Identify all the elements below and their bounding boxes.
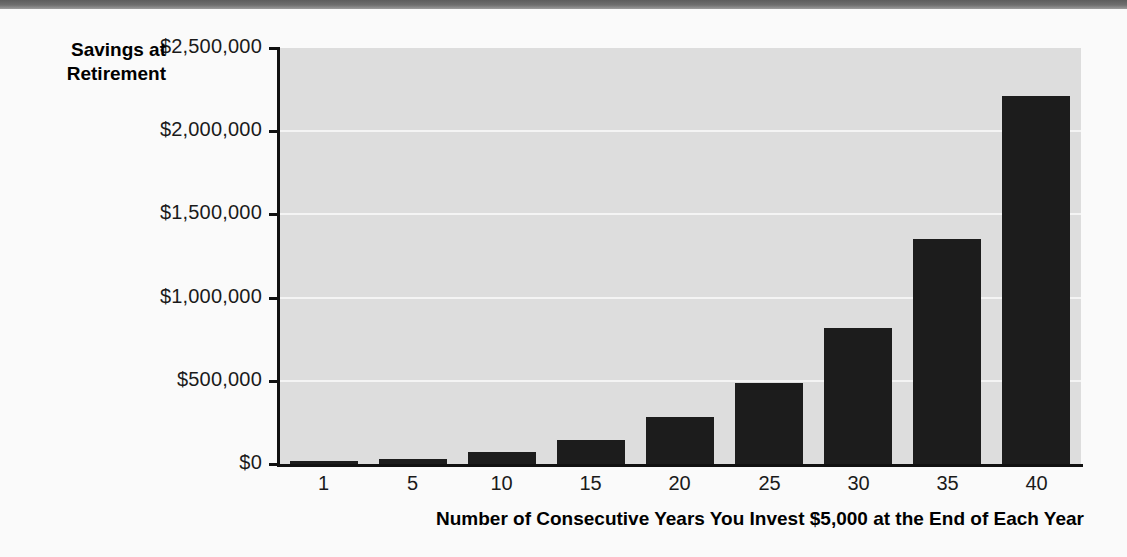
- x-tick-label-5: 5: [368, 472, 457, 495]
- y-axis-line: [277, 47, 280, 465]
- y-tick-mark-1500000: [269, 213, 279, 216]
- y-tick-label-1500000: $1,500,000: [102, 201, 262, 224]
- x-tick-label-10: 10: [457, 472, 546, 495]
- bar-year-15: [557, 440, 625, 464]
- y-axis-title: Savings at Retirement: [36, 38, 166, 86]
- y-tick-label-2000000: $2,000,000: [102, 118, 262, 141]
- y-tick-label-500000: $500,000: [102, 368, 262, 391]
- x-tick-label-25: 25: [725, 472, 814, 495]
- y-axis-top-tick: [269, 47, 280, 50]
- x-tick-label-35: 35: [903, 472, 992, 495]
- bar-year-35: [913, 239, 981, 464]
- y-tick-mark-500000: [269, 380, 279, 383]
- x-tick-label-40: 40: [992, 472, 1081, 495]
- bar-year-25: [735, 383, 803, 464]
- y-axis-title-line-1: Savings at: [36, 38, 166, 62]
- y-tick-mark-1000000: [269, 297, 279, 300]
- x-tick-label-15: 15: [546, 472, 635, 495]
- bar-series: [279, 48, 1081, 464]
- bar-year-20: [646, 417, 714, 464]
- x-axis-line: [277, 464, 1083, 467]
- y-tick-label-1000000: $1,000,000: [102, 285, 262, 308]
- chart-page: $0$500,000$1,000,000$1,500,000$2,000,000…: [0, 0, 1127, 557]
- x-tick-label-30: 30: [814, 472, 903, 495]
- y-tick-label-0: $0: [102, 451, 262, 474]
- savings-at-retirement-bar-chart: $0$500,000$1,000,000$1,500,000$2,000,000…: [0, 0, 1127, 557]
- y-tick-mark-2000000: [269, 130, 279, 133]
- bar-year-40: [1002, 96, 1070, 464]
- y-axis-title-line-2: Retirement: [36, 62, 166, 86]
- x-tick-label-1: 1: [279, 472, 368, 495]
- x-axis-tick-labels: 1510152025303540: [279, 472, 1081, 502]
- x-tick-label-20: 20: [635, 472, 724, 495]
- x-axis-title: Number of Consecutive Years You Invest $…: [279, 508, 1084, 530]
- bar-year-10: [468, 452, 536, 464]
- y-tick-mark-0: [269, 463, 279, 466]
- bar-year-30: [824, 328, 892, 464]
